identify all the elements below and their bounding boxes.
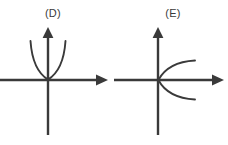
panel-d-graph (0, 0, 114, 145)
panel-e: (E) (114, 0, 228, 145)
two-panel-parabola-figure: (D) (E) (0, 0, 228, 145)
panel-d-y-axis-arrowhead (43, 27, 54, 38)
panel-e-graph (114, 0, 228, 145)
panel-e-y-axis-arrowhead (153, 27, 164, 38)
panel-d-x-axis-arrowhead (96, 75, 108, 86)
panel-e-x-axis-arrowhead (212, 75, 224, 86)
panel-d: (D) (0, 0, 114, 145)
